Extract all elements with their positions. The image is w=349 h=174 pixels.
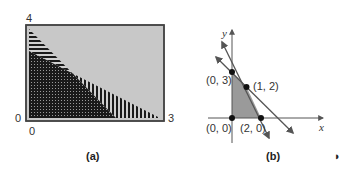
panel-b: y x (0, 3) (1, 2) (0, 0) (2, 0) (b) <box>206 27 324 162</box>
y-axis-label: y <box>221 27 227 39</box>
point-label-1-2: (1, 2) <box>253 80 279 92</box>
point-label-2-0: (2, 0) <box>240 122 266 134</box>
page-marker-icon: ◗ <box>334 150 341 162</box>
caption-b: (b) <box>266 150 280 162</box>
caption-a: (a) <box>86 150 100 162</box>
point-2-0 <box>258 115 264 121</box>
y-max-label: 4 <box>26 12 32 24</box>
point-label-0-3: (0, 3) <box>206 74 232 86</box>
point-0-0 <box>229 115 235 121</box>
point-label-0-0: (0, 0) <box>206 122 232 134</box>
panel-a: 4 0 0 3 (a) <box>15 12 174 162</box>
point-1-2 <box>244 84 250 90</box>
x-axis-label: x <box>318 121 324 133</box>
x-min-label: 0 <box>29 125 35 137</box>
y-min-label: 0 <box>15 112 21 124</box>
feasible-region <box>232 72 261 118</box>
x-max-label: 3 <box>168 112 174 124</box>
